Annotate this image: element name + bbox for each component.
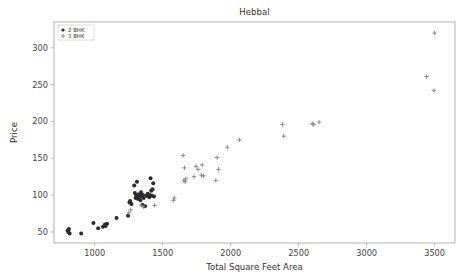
- data-point: [282, 134, 286, 138]
- data-point: [68, 231, 72, 235]
- data-point: [181, 153, 185, 157]
- x-tick-label: 2500: [288, 248, 309, 258]
- y-tick-label: 50: [38, 227, 48, 237]
- legend-label: 3 BHK: [68, 33, 85, 39]
- data-point: [200, 163, 204, 167]
- data-point: [152, 203, 156, 207]
- x-tick-label: 3000: [356, 248, 377, 258]
- data-point: [317, 120, 321, 124]
- data-point: [149, 176, 153, 180]
- data-point: [201, 174, 205, 178]
- data-point: [199, 173, 203, 177]
- data-point: [432, 88, 436, 92]
- chart-title: Hebbal: [239, 7, 269, 17]
- x-tick-label: 1500: [152, 248, 173, 258]
- y-axis-label: Price: [9, 122, 19, 143]
- series-3-bhk: [127, 31, 437, 215]
- data-point: [225, 145, 229, 149]
- data-point: [196, 167, 200, 171]
- y-tick-label: 200: [32, 116, 48, 126]
- data-point: [194, 164, 198, 168]
- data-point: [126, 214, 130, 218]
- data-point: [192, 175, 196, 179]
- data-point: [67, 227, 71, 231]
- data-point: [105, 222, 109, 226]
- x-axis-label: Total Square Feet Area: [205, 262, 303, 272]
- data-point: [138, 198, 142, 202]
- plot-frame: [54, 22, 455, 243]
- x-tick-label: 2000: [220, 248, 241, 258]
- data-point: [280, 122, 284, 126]
- data-point: [182, 166, 186, 170]
- x-tick-label: 1000: [84, 248, 105, 258]
- y-tick-label: 250: [32, 80, 48, 90]
- data-point: [129, 208, 133, 212]
- data-point: [214, 178, 218, 182]
- data-point: [216, 167, 220, 171]
- data-point: [132, 184, 136, 188]
- data-point: [152, 195, 156, 199]
- y-tick-label: 100: [32, 190, 48, 200]
- data-point: [171, 198, 175, 202]
- data-point: [151, 181, 155, 185]
- x-tick-label: 3500: [424, 248, 445, 258]
- data-point: [237, 138, 241, 142]
- data-point: [432, 31, 436, 35]
- chart-figure: 1000150020002500300035005010015020025030…: [0, 0, 473, 279]
- data-point: [91, 221, 95, 225]
- data-point: [424, 74, 428, 78]
- data-point: [96, 226, 100, 230]
- data-point: [79, 231, 83, 235]
- data-point: [215, 155, 219, 159]
- data-point: [135, 180, 139, 184]
- scatter-plot: 1000150020002500300035005010015020025030…: [0, 0, 473, 279]
- data-point: [151, 187, 155, 191]
- y-tick-label: 300: [32, 43, 48, 53]
- data-point: [129, 202, 133, 206]
- data-point: [115, 216, 119, 220]
- legend-marker-2bhk: [61, 28, 64, 31]
- y-tick-label: 150: [32, 153, 48, 163]
- data-point: [172, 196, 176, 200]
